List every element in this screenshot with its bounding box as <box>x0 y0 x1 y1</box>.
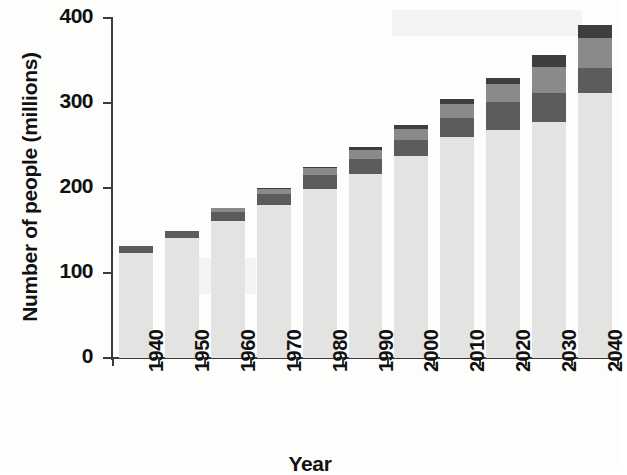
x-axis-tick-label: 1960 <box>237 292 260 372</box>
bar-segment <box>440 118 474 137</box>
x-axis-tick-label: 1980 <box>329 292 352 372</box>
x-axis-tick-label: 2000 <box>420 292 443 372</box>
bar-segment <box>486 102 520 130</box>
x-axis-tick <box>112 357 114 366</box>
y-axis-tick-label: 300 <box>59 89 93 113</box>
x-axis-tick-label: 1950 <box>191 292 214 372</box>
x-axis-tick-label: 2040 <box>604 292 627 372</box>
x-axis-tick-label: 1990 <box>375 292 398 372</box>
y-axis-tick <box>103 187 112 189</box>
bar-segment <box>440 104 474 118</box>
x-axis-tick-label: 1940 <box>145 292 168 372</box>
x-axis-tick-label: 2030 <box>558 292 581 372</box>
bar-segment <box>532 55 566 67</box>
bar-segment <box>303 168 337 175</box>
y-axis-tick-label: 0 <box>82 344 93 368</box>
bar-segment <box>486 78 520 85</box>
bar-segment <box>532 93 566 122</box>
bar-segment <box>165 231 199 238</box>
y-axis-tick <box>103 357 112 359</box>
y-axis-tick-label: 200 <box>59 174 93 198</box>
bar-segment <box>486 84 520 102</box>
y-axis-tick <box>103 102 112 104</box>
bar-segment <box>211 212 245 221</box>
bar-segment <box>578 25 612 38</box>
bar-segment <box>119 246 153 253</box>
bar-segment <box>532 67 566 93</box>
x-axis-tick-label: 2010 <box>466 292 489 372</box>
y-axis-tick-label: 100 <box>59 259 93 283</box>
bar-segment <box>394 129 428 140</box>
y-axis-title: Number of people (millions) <box>18 12 42 362</box>
bar-segment <box>349 150 383 159</box>
bar-segment <box>303 175 337 189</box>
bar-segment <box>394 140 428 156</box>
x-axis-tick-label: 1970 <box>283 292 306 372</box>
x-axis-tick-label: 2020 <box>512 292 535 372</box>
y-axis-tick <box>103 17 112 19</box>
y-axis-tick <box>103 272 112 274</box>
plot-area <box>113 18 618 358</box>
bar-segment <box>578 38 612 69</box>
bar-segment <box>349 159 383 174</box>
bar-segment <box>578 68 612 93</box>
bar-segment <box>257 194 291 205</box>
x-axis-title: Year <box>0 452 620 475</box>
y-axis-tick-label: 400 <box>59 4 93 28</box>
